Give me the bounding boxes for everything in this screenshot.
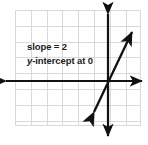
linear-function-graph-figure: slope = 2 y-intercept at 0: [0, 0, 148, 145]
coordinate-plane-svg: [0, 0, 148, 145]
grid-background: [15, 10, 141, 126]
